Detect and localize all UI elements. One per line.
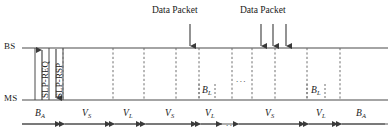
interval-subscript: L	[129, 112, 133, 119]
listening-window-label: BL	[311, 86, 320, 96]
listening-window-symbol: B	[311, 85, 317, 95]
interval-subscript: S	[171, 112, 174, 119]
continuation-ellipsis-frames: ...	[236, 74, 247, 84]
interval-label: VS	[165, 109, 174, 119]
listening-window-subscript: L	[208, 89, 212, 96]
interval-symbol: V	[165, 108, 171, 118]
interval-symbol: V	[82, 108, 88, 118]
interval-subscript: A	[362, 112, 366, 119]
interval-symbol: V	[316, 108, 322, 118]
interval-subscript: L	[211, 112, 215, 119]
interval-label: BA	[35, 109, 45, 119]
interval-symbol: V	[205, 108, 211, 118]
interval-subscript: A	[41, 112, 45, 119]
interval-subscript: S	[88, 112, 91, 119]
data-packet-arrows	[190, 24, 286, 46]
interval-label: VL	[123, 109, 132, 119]
listening-window-symbol: B	[202, 85, 208, 95]
interval-subscript: L	[322, 112, 326, 119]
timing-diagram: BS MS Data Packet Data Packet SLP-REQ SL…	[0, 0, 390, 134]
node-label-ms: MS	[4, 94, 17, 103]
interval-symbol: B	[356, 108, 362, 118]
interval-symbol: V	[265, 108, 271, 118]
listening-window-label: BL	[202, 86, 211, 96]
data-packet-caption-left: Data Packet	[152, 6, 198, 16]
interval-label: VS	[82, 109, 91, 119]
interval-symbol: B	[35, 108, 41, 118]
interval-label: BA	[356, 109, 366, 119]
slp-req-label: SLP-REQ	[40, 61, 50, 98]
interval-subscript: S	[271, 112, 274, 119]
node-label-bs: BS	[4, 42, 15, 51]
interval-label: VL	[316, 109, 325, 119]
listening-window-subscript: L	[317, 89, 321, 96]
interval-label: VL	[205, 109, 214, 119]
data-packet-caption-right: Data Packet	[240, 6, 286, 16]
listening-window-cells	[199, 84, 325, 100]
continuation-ellipsis-intervals: ...	[226, 118, 237, 128]
slp-rsp-label: SLP-RSP	[54, 63, 64, 98]
interval-label: VS	[265, 109, 274, 119]
interval-symbol: V	[123, 108, 129, 118]
